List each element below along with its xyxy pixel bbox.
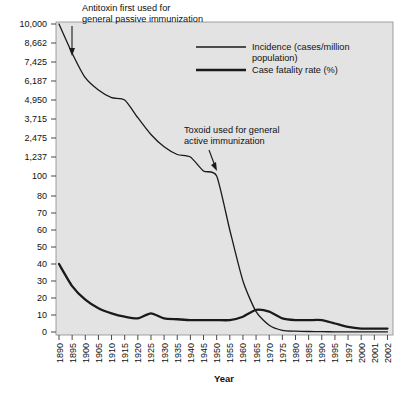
y-tick-label-7,425: 7,425	[24, 57, 47, 67]
legend-label-incidence-line2: population)	[252, 53, 297, 63]
y-tick-label-10: 10	[37, 310, 47, 320]
x-tick-label-1910: 1910	[107, 343, 117, 363]
annotation-antitoxin-line1: Antitoxin first used for	[82, 3, 170, 13]
y-tick-label-50: 50	[37, 242, 47, 252]
y-tick-label-80: 80	[37, 191, 47, 201]
annotation-toxoid-line2: active immunization	[184, 136, 265, 146]
chart-container: 10,0008,6627,4256,1874,9503,7152,4751,23…	[0, 0, 415, 395]
y-tick-label-3,715: 3,715	[24, 114, 47, 124]
diphtheria-incidence-chart: 10,0008,6627,4256,1874,9503,7152,4751,23…	[0, 0, 415, 395]
y-tick-label-1,237: 1,237	[24, 152, 47, 162]
y-tick-label-10,000: 10,000	[19, 19, 47, 29]
x-axis-title: Year	[214, 373, 234, 384]
x-tick-label-1965: 1965	[252, 343, 262, 363]
y-tick-label-100: 100	[32, 171, 47, 181]
annotation-antitoxin-line2: general passive immunization	[82, 14, 203, 24]
y-tick-label-70: 70	[37, 208, 47, 218]
x-tick-label-1915: 1915	[120, 343, 130, 363]
y-tick-label-6,187: 6,187	[24, 76, 47, 86]
x-tick-label-1935: 1935	[173, 343, 183, 363]
x-tick-label-1925: 1925	[146, 343, 156, 363]
x-tick-label-1890: 1890	[55, 343, 65, 363]
x-tick-label-1895: 1895	[68, 343, 78, 363]
legend-label-incidence-line1: Incidence (cases/million	[252, 42, 350, 52]
x-tick-label-1940: 1940	[186, 343, 196, 363]
x-tick-label-1970: 1970	[265, 343, 275, 363]
x-tick-label-1980: 1980	[291, 343, 301, 363]
x-tick-label-1900: 1900	[81, 343, 91, 363]
x-tick-label-2002: 2002	[383, 343, 393, 363]
x-tick-label-1990: 1990	[317, 343, 327, 363]
legend-label-case-fatality: Case fatality rate (%)	[252, 65, 338, 75]
x-tick-label-1975: 1975	[278, 343, 288, 363]
x-tick-label-1955: 1955	[225, 343, 235, 363]
y-tick-label-20: 20	[37, 293, 47, 303]
x-tick-label-1945: 1945	[199, 343, 209, 363]
x-tick-label-1960: 1960	[238, 343, 248, 363]
y-tick-label-2,475: 2,475	[24, 133, 47, 143]
x-tick-label-1905: 1905	[94, 343, 104, 363]
x-tick-label-2000: 2000	[357, 343, 367, 363]
x-tick-label-1995: 1995	[330, 343, 340, 363]
x-tick-label-1930: 1930	[160, 343, 170, 363]
y-tick-label-60: 60	[37, 225, 47, 235]
x-tick-label-2001: 2001	[370, 343, 380, 363]
y-tick-label-40: 40	[37, 259, 47, 269]
x-tick-label-1997: 1997	[344, 343, 354, 363]
annotation-toxoid-line1: Toxoid used for general	[184, 125, 280, 135]
x-tick-label-1920: 1920	[133, 343, 143, 363]
y-tick-label-4,950: 4,950	[24, 95, 47, 105]
y-tick-label-30: 30	[37, 276, 47, 286]
x-tick-label-1950: 1950	[212, 343, 222, 363]
y-tick-label-8,662: 8,662	[24, 38, 47, 48]
x-tick-label-1985: 1985	[304, 343, 314, 363]
y-tick-label-0: 0	[42, 327, 47, 337]
